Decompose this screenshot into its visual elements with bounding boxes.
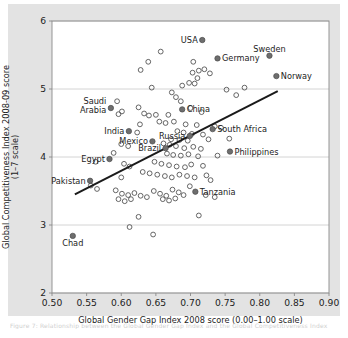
point-label: Germany (222, 53, 260, 63)
x-tick-label: 0.60 (111, 297, 132, 308)
y-tick-label: 6 (40, 15, 46, 26)
x-tick-label: 0.85 (284, 297, 305, 308)
data-point-labeled (267, 53, 272, 58)
x-tick-label: 0.80 (250, 297, 271, 308)
y-axis-title: Global Competitiveness Index 2008-09 sco… (1, 65, 20, 249)
data-point-labeled (126, 128, 131, 133)
data-point-labeled (215, 56, 220, 61)
point-label: South Africa (217, 124, 267, 134)
point-label: China (187, 104, 210, 114)
data-point-labeled (107, 156, 112, 161)
figure-container: 0.500.550.600.650.700.750.800.850.906543… (0, 0, 348, 338)
data-point-labeled (108, 105, 113, 110)
scatter-chart: 0.500.550.600.650.700.750.800.850.906543… (0, 0, 348, 338)
point-label: USA (181, 35, 198, 45)
point-label: India (104, 126, 124, 136)
x-tick-label: 0.65 (146, 297, 167, 308)
x-tick-label: 0.90 (319, 297, 340, 308)
data-point-labeled (179, 107, 184, 112)
data-point-labeled (87, 178, 92, 183)
data-point-labeled (193, 189, 198, 194)
data-point-labeled (274, 73, 279, 78)
y-tick-label: 3 (40, 219, 46, 230)
y-tick-label: 5 (40, 83, 46, 94)
data-point-labeled (200, 37, 205, 42)
data-point-labeled (163, 145, 168, 150)
figure-caption: Figure 7: Relationship between the Globa… (10, 322, 340, 329)
x-tick-label: 0.75 (215, 297, 236, 308)
x-tick-label: 0.50 (42, 297, 63, 308)
point-label: Norway (281, 71, 312, 81)
y-tick-label: 4 (40, 151, 46, 162)
point-label: Pakistan (51, 176, 85, 186)
point-label: Russia (159, 131, 185, 141)
x-tick-label: 0.55 (76, 297, 97, 308)
point-label: Sweden (253, 44, 285, 54)
data-point-labeled (210, 126, 215, 131)
point-label: Chad (62, 238, 83, 248)
data-point-labeled (187, 133, 192, 138)
point-label: Tanzania (199, 187, 236, 197)
point-label: Brazil (138, 143, 161, 153)
data-point-labeled (227, 149, 232, 154)
point-label: Egypt (81, 154, 105, 164)
point-label: SaudiArabia (80, 96, 106, 115)
point-label: Philippines (234, 147, 278, 157)
x-tick-label: 0.70 (180, 297, 201, 308)
y-tick-label: 2 (40, 287, 46, 298)
